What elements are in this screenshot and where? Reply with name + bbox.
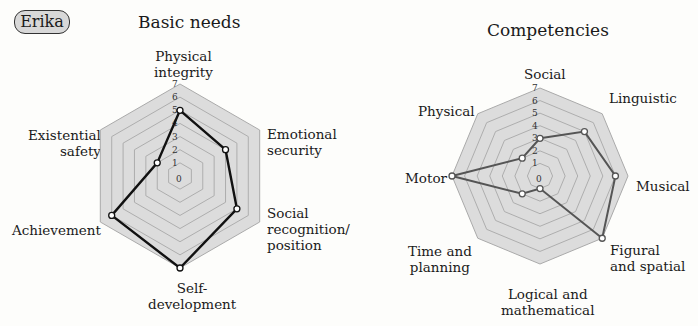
tick-label: 3 (172, 132, 178, 142)
basic-needs-radar: 01234567 (100, 79, 259, 271)
data-point-marker (581, 129, 587, 135)
data-point-marker (612, 173, 618, 179)
data-point-marker (537, 135, 543, 141)
data-point-marker (234, 206, 240, 212)
tick-label: 7 (532, 83, 538, 93)
tick-label: 2 (172, 145, 178, 155)
tick-label: 0 (176, 174, 182, 184)
data-point-marker (154, 160, 160, 166)
tick-label: 4 (532, 121, 538, 131)
data-point-marker (519, 191, 525, 197)
data-point-marker (519, 155, 525, 161)
data-point-marker (177, 107, 183, 113)
tick-label: 6 (532, 96, 538, 106)
data-point-marker (537, 186, 543, 192)
data-point-marker (109, 212, 115, 218)
tick-label: 7 (172, 79, 178, 89)
tick-label: 0 (536, 174, 542, 184)
data-point-marker (599, 235, 605, 241)
data-point-marker (449, 173, 455, 179)
tick-label: 1 (172, 158, 178, 168)
data-point-marker (223, 147, 229, 153)
data-point-marker (177, 265, 183, 271)
competencies-radar: 01234567 (449, 83, 628, 264)
radar-charts: 0123456701234567 (0, 0, 698, 326)
tick-label: 6 (172, 92, 178, 102)
tick-label: 5 (532, 108, 538, 118)
tick-label: 1 (532, 158, 538, 168)
